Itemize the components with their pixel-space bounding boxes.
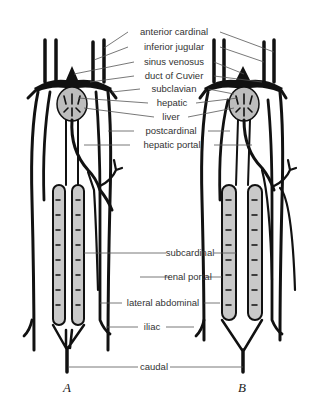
b-hepatic-portal-branch <box>262 170 272 280</box>
label-renal-portal: renal portal <box>164 271 212 282</box>
label-sinus-venosus: sinus venosus <box>144 56 204 67</box>
panel-b-caption: B <box>238 380 246 395</box>
label-liver: liver <box>162 111 179 122</box>
a-hepatic-portal-branch <box>88 172 98 290</box>
b-intestinal-branch <box>274 160 296 290</box>
b-subclavian-left <box>200 90 206 98</box>
panel-a-caption: A <box>62 380 71 395</box>
b-kidney-right <box>248 185 262 320</box>
a-lateral-abdominal-upper-left <box>44 92 50 200</box>
a-postcardinal-left <box>32 92 38 350</box>
a-subclavian-right <box>110 90 116 98</box>
b-kidney-left <box>222 185 236 320</box>
a-subclavian-left <box>28 90 36 98</box>
b-postcardinal-right <box>280 92 283 340</box>
label-hepatic-portal: hepatic portal <box>143 139 200 150</box>
panel-a <box>24 40 122 372</box>
a-caudal-convergence <box>53 325 84 348</box>
label-caudal: caudal <box>140 361 168 372</box>
a-iliac-left <box>24 320 32 336</box>
label-hepatic: hepatic <box>157 97 188 108</box>
label-postcardinal: postcardinal <box>145 125 196 136</box>
a-kidney-right <box>72 185 84 325</box>
label-duct-of-cuvier: duct of Cuvier <box>145 70 204 81</box>
venous-system-diagram: anterior cardinal inferior jugular sinus… <box>0 0 334 409</box>
label-anterior-cardinal: anterior cardinal <box>140 26 208 37</box>
label-subcardinal: subcardinal <box>166 247 215 258</box>
label-inferior-jugular: inferior jugular <box>144 41 204 52</box>
label-lateral-abdominal: lateral abdominal <box>127 297 199 308</box>
label-subclavian: subclavian <box>152 83 197 94</box>
a-kidney-left <box>53 185 65 325</box>
b-caudal-convergence <box>222 320 262 350</box>
label-iliac: iliac <box>144 321 161 332</box>
